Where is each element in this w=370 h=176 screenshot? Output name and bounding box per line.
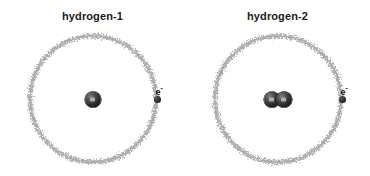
isotope-diagram: hydrogen-1 e- hydrog [0,0,370,176]
electron-label-text: e [156,87,161,97]
electron-label-hydrogen-2: e- [341,87,348,97]
proton-particle [85,91,101,107]
electron-label-text: e [341,87,346,97]
nucleus-hydrogen-2 [264,91,292,108]
electron-charge-sign: - [161,84,163,91]
electron-charge-sign: - [346,84,348,91]
atom-hydrogen-1: hydrogen-1 e- [0,0,185,176]
atom-title-hydrogen-1: hydrogen-1 [0,10,185,23]
atom-title-hydrogen-2: hydrogen-2 [185,10,370,23]
atom-hydrogen-2: hydrogen-2 e- [185,0,370,176]
nucleus-hydrogen-1 [85,91,101,108]
electron-label-hydrogen-1: e- [156,87,163,97]
neutron-particle [276,91,292,107]
